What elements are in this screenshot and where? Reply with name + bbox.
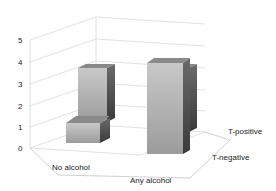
z-label-t-negative: T-negative (212, 153, 250, 162)
bar-tnegative-no-alcohol (66, 116, 110, 143)
bar-tnegative-any-alcohol (147, 58, 190, 154)
svg-text:2: 2 (18, 102, 23, 111)
z-label-t-positive: T-positive (228, 127, 263, 136)
chart: 0 1 2 3 4 5 No alcohol Any alcohol T-pos… (0, 0, 276, 191)
svg-text:3: 3 (18, 80, 23, 89)
svg-text:1: 1 (18, 123, 23, 132)
svg-text:0: 0 (18, 144, 23, 153)
y-axis-labels: 0 1 2 3 4 5 (18, 36, 23, 153)
bar-tpositive-no-alcohol (78, 64, 115, 122)
svg-text:4: 4 (18, 58, 23, 67)
x-label-no-alcohol: No alcohol (52, 163, 90, 172)
x-label-any-alcohol: Any alcohol (130, 176, 172, 185)
svg-text:5: 5 (18, 36, 23, 45)
